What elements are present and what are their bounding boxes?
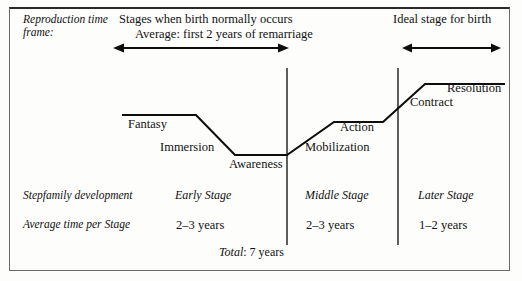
cell-stage-later: Later Stage	[418, 189, 474, 202]
curve-label-action: Action	[340, 120, 374, 134]
header-ideal-stage-for-birth: Ideal stage for birth	[393, 12, 491, 26]
cell-stage-middle: Middle Stage	[305, 189, 369, 202]
row-label-reproduction-time-frame: Reproduction time frame:	[23, 13, 118, 39]
header-average-first-two-years: Average: first 2 years of remarriage	[135, 27, 313, 41]
curve-label-resolution: Resolution	[447, 81, 501, 95]
curve-label-immersion: Immersion	[160, 140, 214, 154]
total-label: Total	[219, 245, 243, 259]
row-label-average-time-per-stage: Average time per Stage	[23, 218, 130, 231]
curve-label-fantasy: Fantasy	[128, 117, 167, 131]
header-birth-normally-occurs: Stages when birth normally occurs	[119, 12, 293, 26]
diagram-page: Reproduction time frame: Stages when bir…	[0, 0, 522, 281]
cell-stage-early: Early Stage	[175, 189, 231, 202]
total-years-line: Total: 7 years	[219, 246, 284, 259]
total-value: : 7 years	[243, 245, 284, 259]
cell-time-middle: 2–3 years	[306, 218, 354, 232]
cell-time-later: 1–2 years	[419, 218, 467, 232]
curve-label-mobilization: Mobilization	[305, 140, 370, 154]
curve-label-contract: Contract	[410, 95, 453, 109]
cell-time-early: 2–3 years	[176, 218, 224, 232]
curve-label-awareness: Awareness	[229, 157, 283, 171]
row-label-stepfamily-development: Stepfamily development	[23, 189, 133, 202]
